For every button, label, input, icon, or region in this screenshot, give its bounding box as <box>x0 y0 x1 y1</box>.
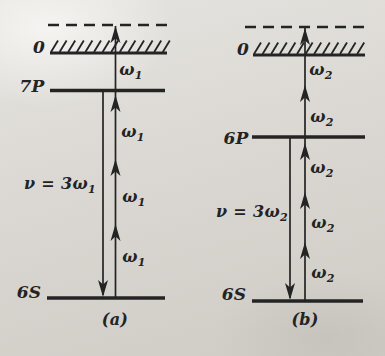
photon-label-subscript: 1 <box>135 69 143 82</box>
photon-label-base: ω <box>119 60 135 79</box>
photon-label-subscript: 2 <box>327 272 335 285</box>
hatch-mark <box>120 41 127 53</box>
photon-label-subscript: 1 <box>137 131 145 144</box>
hatch-mark <box>288 43 295 55</box>
emission-label-subscript: 2 <box>280 211 288 224</box>
hatch-mark <box>271 43 278 55</box>
photon-label: ω2 <box>310 109 334 125</box>
hatch-mark <box>137 41 144 53</box>
hatch-mark <box>357 43 364 55</box>
hatch-mark <box>349 43 356 55</box>
panel-caption: (b) <box>291 312 318 328</box>
photon-label-base: ω <box>311 263 327 282</box>
hatch-mark <box>306 43 313 55</box>
hatch-mark <box>146 41 153 53</box>
level-label-level-6S: 6S <box>222 286 247 303</box>
level-label-ionization-limit: 0 <box>33 39 45 56</box>
photon-label: ω1 <box>121 124 145 140</box>
photon-label-subscript: 2 <box>326 167 334 180</box>
hatch-mark <box>51 41 58 53</box>
photon-label-base: ω <box>121 122 137 141</box>
hatch-mark <box>280 43 287 55</box>
energy-level-diagram: 07P6Sω1ω1ω1ω1ν = 3ω1(a)06P6Sω2ω2ω2ω2ω2ν … <box>0 0 385 356</box>
photon-label-base: ω <box>309 60 325 79</box>
emission-label: ν = 3ω1 <box>24 176 96 192</box>
level-label-ionization-limit: 0 <box>237 41 249 58</box>
hatch-mark <box>68 41 75 53</box>
photon-label-base: ω <box>310 107 326 126</box>
level-label-level-6P: 6P <box>223 130 248 147</box>
panel-caption: (a) <box>102 312 128 328</box>
hatch-mark <box>103 41 110 53</box>
photon-label: ω2 <box>309 62 333 78</box>
hatch-mark <box>323 43 330 55</box>
photon-label-subscript: 2 <box>327 222 335 235</box>
photon-label-base: ω <box>122 247 138 266</box>
hatch-mark <box>85 41 92 53</box>
emission-label-base: ν = 3ω <box>216 202 280 221</box>
level-label-level-7P: 7P <box>19 78 44 95</box>
hatch-mark <box>60 41 67 53</box>
hatch-mark <box>314 43 321 55</box>
emission-label-subscript: 1 <box>88 183 96 196</box>
hatch-mark <box>128 41 135 53</box>
hatch-mark <box>331 43 338 55</box>
emission-label: ν = 3ω2 <box>216 204 288 220</box>
hatch-mark <box>254 43 261 55</box>
photon-label-subscript: 1 <box>138 196 146 209</box>
photon-label-subscript: 2 <box>326 116 334 129</box>
photon-label-base: ω <box>122 187 138 206</box>
photon-label: ω2 <box>311 215 335 231</box>
hatch-mark <box>77 41 84 53</box>
photon-label-base: ω <box>311 213 327 232</box>
photon-label-subscript: 2 <box>325 69 333 82</box>
level-label-level-6S: 6S <box>17 284 42 301</box>
emission-label-base: ν = 3ω <box>24 174 88 193</box>
hatch-mark <box>340 43 347 55</box>
hatch-mark <box>263 43 270 55</box>
photon-label: ω2 <box>311 265 335 281</box>
photon-label: ω2 <box>310 160 334 176</box>
photon-label-base: ω <box>310 158 326 177</box>
photon-label: ω1 <box>122 189 146 205</box>
hatch-mark <box>163 41 170 53</box>
hatch-mark <box>94 41 101 53</box>
photon-label-subscript: 1 <box>138 256 146 269</box>
hatch-mark <box>154 41 161 53</box>
photon-label: ω1 <box>122 249 146 265</box>
photon-label: ω1 <box>119 62 143 78</box>
